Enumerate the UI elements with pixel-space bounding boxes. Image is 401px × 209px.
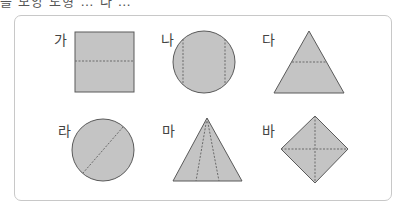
shape-triangle-ma <box>173 118 242 181</box>
shape-circle-ra <box>72 119 134 181</box>
shape-triangle-da <box>274 31 344 93</box>
shape-diamond-ba <box>281 116 348 183</box>
shape-circle-na <box>173 31 235 93</box>
shapes-canvas <box>0 0 401 209</box>
shape-square-ga <box>75 32 134 92</box>
